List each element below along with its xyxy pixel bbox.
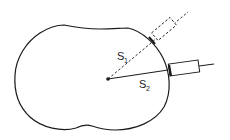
path-s2-line bbox=[108, 70, 168, 79]
probe-2 bbox=[168, 60, 199, 76]
label-s2-subscript: 2 bbox=[146, 85, 150, 92]
label-s1-subscript: 1 bbox=[124, 57, 128, 64]
diagram-canvas: S 1 S 2 bbox=[0, 0, 230, 140]
probe-2-cable bbox=[199, 64, 214, 66]
probe-1 bbox=[152, 17, 177, 40]
center-point bbox=[106, 77, 110, 81]
